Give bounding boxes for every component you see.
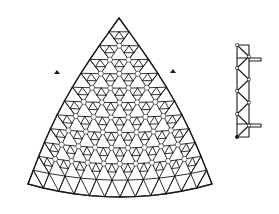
node-ring xyxy=(100,130,105,135)
truss-support-node xyxy=(235,135,239,139)
node-ring xyxy=(99,100,104,105)
truss-node xyxy=(235,66,238,69)
node-ring xyxy=(53,156,58,161)
structural-drawing xyxy=(0,0,279,214)
node-ring xyxy=(126,86,131,91)
node-ring xyxy=(59,142,64,147)
node-ring xyxy=(117,130,122,135)
node-ring xyxy=(175,142,180,147)
truss-node xyxy=(247,101,250,104)
node-ring xyxy=(93,145,98,150)
truss-node xyxy=(235,112,238,115)
truss-node xyxy=(247,78,250,81)
node-ring xyxy=(117,161,122,166)
node-ring xyxy=(158,144,163,149)
truss-node xyxy=(247,124,250,127)
node-ring xyxy=(73,114,78,119)
node-ring xyxy=(98,71,103,76)
node-ring xyxy=(126,115,131,120)
node-ring xyxy=(149,160,154,165)
truss-node xyxy=(247,55,250,58)
node-ring xyxy=(91,114,96,119)
node-ring xyxy=(166,159,171,164)
node-ring xyxy=(85,160,90,165)
node-ring xyxy=(81,99,86,104)
node-ring xyxy=(117,71,122,76)
truss-members xyxy=(237,45,261,137)
node-ring xyxy=(66,128,71,133)
node-ring xyxy=(144,85,149,90)
node-ring xyxy=(133,161,138,166)
node-ring xyxy=(69,159,74,164)
node-ring xyxy=(151,129,156,134)
node-ring xyxy=(135,71,140,76)
node-ring xyxy=(117,43,122,48)
node-ring xyxy=(143,114,148,119)
truss-node xyxy=(235,43,238,46)
node-ring xyxy=(153,99,158,104)
node-ring xyxy=(108,86,113,91)
node-ring xyxy=(117,100,122,105)
node-ring xyxy=(168,128,173,133)
node-ring xyxy=(182,156,187,161)
node-ring xyxy=(109,145,114,150)
node-ring xyxy=(126,57,131,62)
space-frame-plan xyxy=(28,18,212,197)
truss-elevation xyxy=(235,43,261,138)
node-ring xyxy=(134,130,139,135)
right-marker-icon xyxy=(170,69,176,73)
node-ring xyxy=(125,145,130,150)
left-marker-icon xyxy=(54,70,60,74)
node-ring xyxy=(76,144,81,149)
node-ring xyxy=(101,161,106,166)
node-ring xyxy=(108,115,113,120)
truss-node xyxy=(235,89,238,92)
node-ring xyxy=(135,100,140,105)
node-ring xyxy=(107,57,112,62)
node-ring xyxy=(83,129,88,134)
node-ring xyxy=(161,114,166,119)
node-ring xyxy=(142,145,147,150)
node-ring xyxy=(89,85,94,90)
